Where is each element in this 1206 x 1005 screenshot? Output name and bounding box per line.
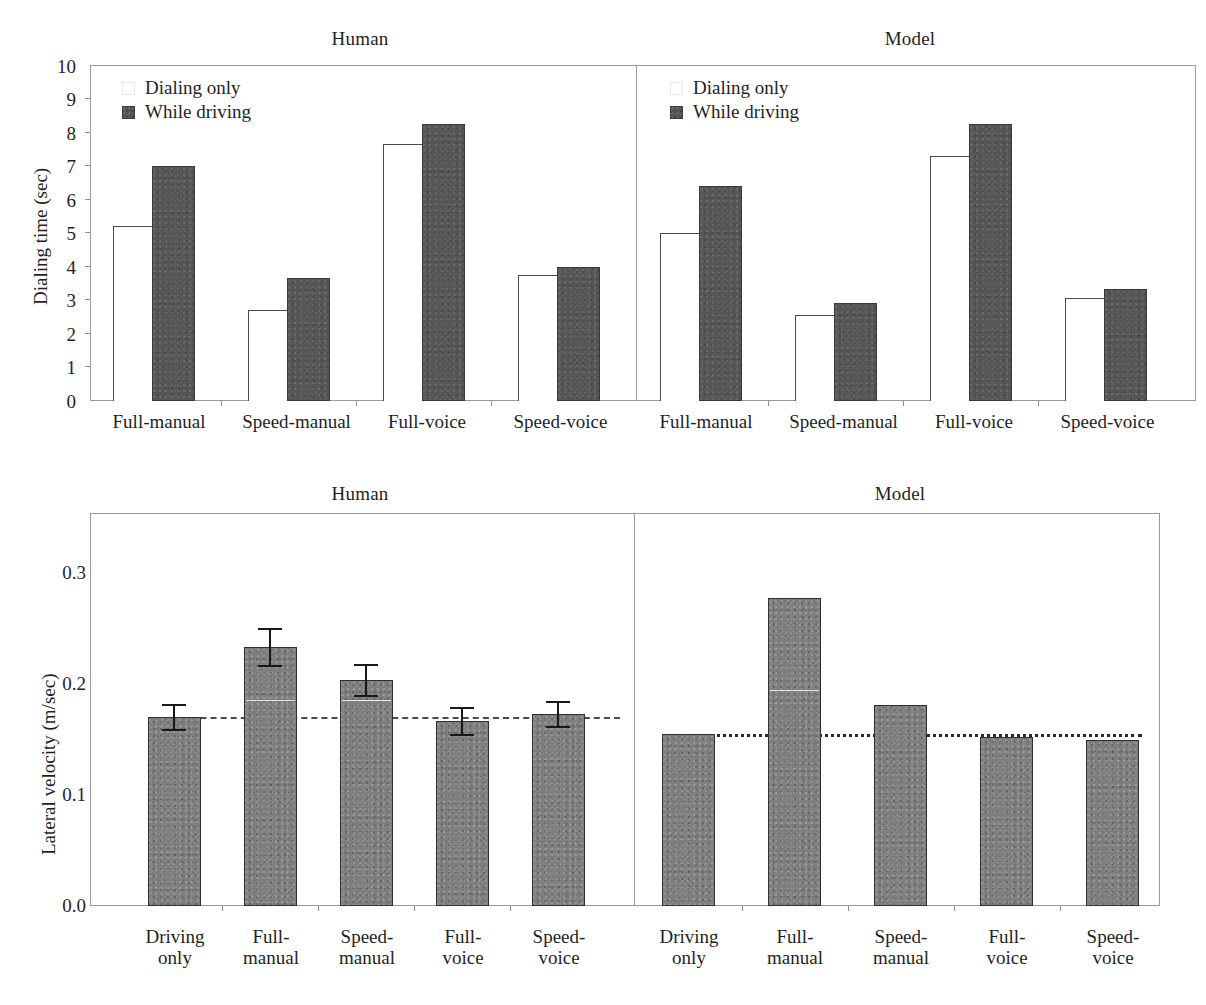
bottom-chart-errorbar-cap-human-full-manual bbox=[258, 628, 282, 630]
top-chart-xtick-mark bbox=[768, 401, 769, 406]
top-chart-human-title: Human bbox=[280, 28, 440, 50]
bottom-chart-xtick-mark bbox=[954, 906, 955, 911]
top-chart-xlabel-human-full-manual: Full-manual bbox=[89, 411, 229, 432]
bottom-chart-xlabel-human-speed-voice: Speed- voice bbox=[503, 926, 615, 969]
bottom-chart-xtick-mark bbox=[414, 906, 415, 911]
legend-row-while-driving: While driving bbox=[122, 100, 251, 124]
top-chart-ytick-10: 10 bbox=[44, 57, 76, 76]
bottom-chart-errorbar-cap-human-full-manual bbox=[258, 665, 282, 667]
top-chart-xlabel-model-speed-manual: Speed-manual bbox=[766, 411, 921, 432]
legend-swatch-dialing-only-icon bbox=[670, 82, 683, 95]
bottom-chart-errorbar-stem-human-speed-voice bbox=[557, 701, 559, 727]
bottom-chart-errorbar-cap-human-speed-voice bbox=[546, 701, 570, 703]
bottom-chart-bar-model-speed-voice bbox=[1086, 740, 1139, 906]
bottom-chart-errorbar-cap-human-full-voice bbox=[450, 734, 474, 736]
bottom-chart-errorbar-cap-human-speed-voice bbox=[546, 726, 570, 728]
top-chart-xlabel-model-speed-voice: Speed-voice bbox=[1036, 411, 1179, 432]
top-chart-bar-human-full-voice-while-driving bbox=[422, 124, 465, 401]
top-chart-ytick-9: 9 bbox=[44, 90, 76, 109]
bottom-chart-y-axis-label: Lateral velocity (m/sec) bbox=[38, 674, 60, 855]
top-chart-bar-human-full-manual-while-driving bbox=[152, 166, 195, 401]
bottom-chart-errorbar-stem-human-speed-manual bbox=[365, 664, 367, 696]
xlabel-line-1: Full- bbox=[951, 926, 1063, 947]
bottom-chart-errorbar-stem-human-full-manual bbox=[269, 628, 271, 666]
top-chart-bar-model-speed-manual-while-driving bbox=[834, 303, 877, 401]
top-chart-ytick-3: 3 bbox=[44, 291, 76, 310]
top-chart-ytick-2: 2 bbox=[44, 325, 76, 344]
top-chart-ytick-0: 0 bbox=[44, 392, 76, 411]
bottom-chart-errorbar-cap-human-full-voice bbox=[450, 707, 474, 709]
bottom-chart-xtick-mark bbox=[848, 906, 849, 911]
bottom-chart-xlabel-model-speed-manual: Speed- manual bbox=[845, 926, 957, 969]
legend-swatch-dialing-only-icon bbox=[122, 82, 135, 95]
bottom-chart-errorbar-cap-human-speed-manual bbox=[354, 695, 378, 697]
top-chart-bar-human-speed-manual-while-driving bbox=[287, 278, 330, 401]
bottom-chart-errorbar-cap-human-driving-only bbox=[162, 704, 186, 706]
legend-swatch-while-driving-icon bbox=[122, 106, 135, 119]
top-chart-bar-model-speed-manual-dialing-only bbox=[795, 315, 835, 401]
xlabel-line-2: voice bbox=[503, 947, 615, 968]
top-chart-model-title: Model bbox=[830, 28, 990, 50]
top-chart-xtick-mark bbox=[491, 401, 492, 406]
top-chart-bar-human-full-manual-dialing-only bbox=[113, 226, 153, 401]
top-chart-ytick-6: 6 bbox=[44, 191, 76, 210]
top-chart-xtick-mark bbox=[1038, 401, 1039, 406]
top-chart-xtick-mark bbox=[903, 401, 904, 406]
legend-row-dialing-only: Dialing only bbox=[670, 76, 799, 100]
bottom-chart-bar-model-driving-only bbox=[662, 734, 715, 906]
top-chart-ytick-5: 5 bbox=[44, 224, 76, 243]
legend-label-dialing-only: Dialing only bbox=[693, 77, 789, 99]
bottom-chart-model-title: Model bbox=[820, 483, 980, 505]
legend-label-while-driving: While driving bbox=[145, 101, 251, 123]
top-chart-ytick-1: 1 bbox=[44, 358, 76, 377]
bottom-chart-errorbar-stem-human-driving-only bbox=[173, 704, 175, 730]
bottom-chart-errorbar-cap-human-speed-manual bbox=[354, 664, 378, 666]
top-chart-bar-human-speed-manual-dialing-only bbox=[248, 310, 288, 401]
bottom-chart-xlabel-model-full-voice: Full- voice bbox=[951, 926, 1063, 969]
bottom-chart-bar-artifact bbox=[246, 700, 295, 701]
top-chart-xlabel-human-full-voice: Full-voice bbox=[363, 411, 491, 432]
top-chart-bar-human-full-voice-dialing-only bbox=[383, 144, 423, 401]
bottom-chart-ytick-01: 0.1 bbox=[44, 785, 86, 804]
xlabel-line-2: manual bbox=[739, 947, 851, 968]
bottom-chart-xlabel-model-driving-only: Driving only bbox=[633, 926, 745, 969]
top-chart-bar-human-speed-voice-dialing-only bbox=[518, 275, 558, 401]
top-chart-bar-model-speed-voice-while-driving bbox=[1104, 289, 1147, 401]
xlabel-line-2: only bbox=[633, 947, 745, 968]
xlabel-line-1: Speed- bbox=[503, 926, 615, 947]
bottom-chart-bar-human-speed-manual bbox=[340, 680, 393, 906]
top-chart-ytick-8: 8 bbox=[44, 124, 76, 143]
top-chart-bar-model-speed-voice-dialing-only bbox=[1065, 298, 1105, 401]
top-chart-xlabel-model-full-voice: Full-voice bbox=[910, 411, 1038, 432]
top-chart-ytick-7: 7 bbox=[44, 157, 76, 176]
bottom-chart-xtick-mark bbox=[510, 906, 511, 911]
top-chart-bar-human-speed-voice-while-driving bbox=[557, 267, 600, 401]
bottom-chart-xtick-mark bbox=[318, 906, 319, 911]
top-chart-bar-model-full-voice-dialing-only bbox=[930, 156, 970, 401]
xlabel-line-2: voice bbox=[1057, 947, 1169, 968]
top-chart-legend-human: Dialing only While driving bbox=[122, 76, 251, 124]
top-chart-bar-model-full-voice-while-driving bbox=[969, 124, 1012, 401]
xlabel-line-1: Driving bbox=[633, 926, 745, 947]
xlabel-line-2: manual bbox=[845, 947, 957, 968]
bottom-chart-errorbar-stem-human-full-voice bbox=[461, 707, 463, 735]
figure-root: Human Model Dialing time (sec) 10 9 8 7 … bbox=[0, 0, 1206, 1005]
top-chart-xlabel-human-speed-manual: Speed-manual bbox=[219, 411, 374, 432]
legend-row-dialing-only: Dialing only bbox=[122, 76, 251, 100]
xlabel-line-1: Full- bbox=[739, 926, 851, 947]
top-chart-bar-model-full-manual-while-driving bbox=[699, 186, 742, 401]
bottom-chart-bar-human-full-voice bbox=[436, 721, 489, 906]
bottom-chart-xtick-mark bbox=[222, 906, 223, 911]
top-chart-xlabel-human-speed-voice: Speed-voice bbox=[489, 411, 632, 432]
bottom-chart-xtick-mark bbox=[1060, 906, 1061, 911]
legend-swatch-while-driving-icon bbox=[670, 106, 683, 119]
xlabel-line-1: Speed- bbox=[845, 926, 957, 947]
bottom-chart-ytick-00: 0.0 bbox=[44, 896, 86, 915]
bottom-chart-bar-human-full-manual bbox=[244, 647, 297, 906]
top-chart-xtick-mark bbox=[356, 401, 357, 406]
bottom-chart-ytick-02: 0.2 bbox=[44, 674, 86, 693]
bottom-chart-bar-model-full-voice bbox=[980, 737, 1033, 906]
bottom-chart-xlabel-model-speed-voice: Speed- voice bbox=[1057, 926, 1169, 969]
bottom-chart-xlabel-model-full-manual: Full- manual bbox=[739, 926, 851, 969]
top-chart-legend-model: Dialing only While driving bbox=[670, 76, 799, 124]
